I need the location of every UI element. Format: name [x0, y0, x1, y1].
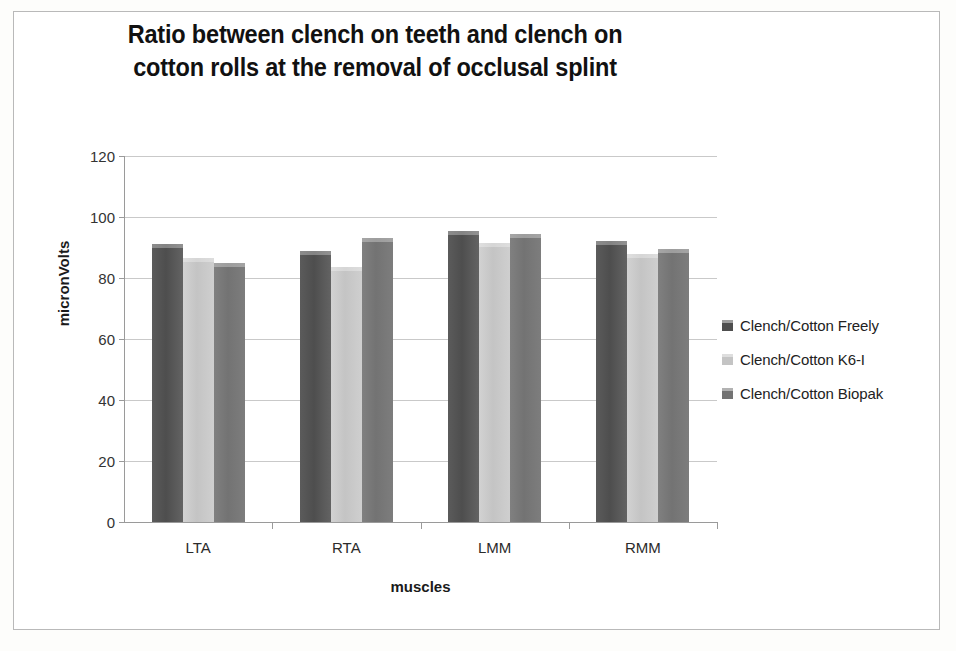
y-tick-mark	[119, 339, 125, 340]
bar-highlight	[448, 231, 479, 235]
chart-figure: Ratio between clench on teeth and clench…	[0, 0, 956, 651]
bar-group	[596, 156, 689, 522]
legend-item[interactable]: Clench/Cotton Freely	[722, 308, 937, 342]
x-category-label-lta: LTA	[185, 539, 210, 556]
y-tick-label: 100	[90, 209, 115, 226]
bar-highlight	[510, 234, 541, 238]
plot-area: 020406080100120 LTARTALMMRMM	[124, 156, 717, 522]
bar[interactable]	[596, 241, 627, 522]
bar[interactable]	[658, 249, 689, 522]
bar[interactable]	[300, 251, 331, 522]
legend-label: Clench/Cotton K6-I	[740, 351, 865, 368]
chart-title-line-2: cotton rolls at the removal of occlusal …	[79, 51, 671, 84]
legend-swatch-icon	[722, 320, 733, 331]
bar-highlight	[183, 258, 214, 262]
chart-legend: Clench/Cotton FreelyClench/Cotton K6-ICl…	[722, 308, 937, 410]
bar-group	[448, 156, 541, 522]
bar-highlight	[596, 241, 627, 245]
y-tick-label: 60	[98, 331, 115, 348]
x-tick-mark	[272, 522, 273, 529]
legend-item[interactable]: Clench/Cotton Biopak	[722, 376, 937, 410]
x-category-label-rta: RTA	[332, 539, 361, 556]
chart-title-line-1: Ratio between clench on teeth and clench…	[79, 18, 671, 51]
y-tick-label: 40	[98, 392, 115, 409]
y-tick-mark	[119, 461, 125, 462]
bar-highlight	[479, 243, 510, 247]
y-tick-mark	[119, 278, 125, 279]
bar[interactable]	[479, 243, 510, 522]
bar-group	[300, 156, 393, 522]
y-tick-mark	[119, 156, 125, 157]
x-category-label-lmm: LMM	[478, 539, 511, 556]
bar[interactable]	[214, 263, 245, 522]
bar[interactable]	[627, 254, 658, 522]
bar-highlight	[331, 267, 362, 271]
x-tick-mark	[421, 522, 422, 529]
y-tick-label: 80	[98, 270, 115, 287]
legend-label: Clench/Cotton Freely	[740, 317, 879, 334]
y-tick-label: 120	[90, 148, 115, 165]
x-tick-mark	[717, 522, 718, 529]
y-axis-title: micronVolts	[55, 214, 72, 354]
bar[interactable]	[362, 238, 393, 522]
bar-highlight	[362, 238, 393, 242]
y-tick-mark	[119, 217, 125, 218]
bar-highlight	[300, 251, 331, 255]
bar[interactable]	[183, 258, 214, 522]
bar-group	[152, 156, 245, 522]
legend-label: Clench/Cotton Biopak	[740, 385, 883, 402]
bar-highlight	[627, 254, 658, 258]
legend-swatch-icon	[722, 388, 733, 399]
bar-highlight	[214, 263, 245, 267]
x-tick-mark	[569, 522, 570, 529]
bar[interactable]	[331, 267, 362, 522]
y-tick-label: 20	[98, 453, 115, 470]
legend-swatch-icon	[722, 354, 733, 365]
y-tick-label: 0	[107, 514, 115, 531]
bar[interactable]	[152, 244, 183, 522]
bar[interactable]	[510, 234, 541, 522]
y-tick-mark	[119, 522, 125, 523]
x-category-label-rmm: RMM	[625, 539, 661, 556]
bar-highlight	[152, 244, 183, 248]
y-tick-mark	[119, 400, 125, 401]
bar-highlight	[658, 249, 689, 253]
legend-item[interactable]: Clench/Cotton K6-I	[722, 342, 937, 376]
x-axis-title: muscles	[124, 578, 717, 595]
chart-title: Ratio between clench on teeth and clench…	[79, 18, 671, 84]
bar[interactable]	[448, 231, 479, 522]
